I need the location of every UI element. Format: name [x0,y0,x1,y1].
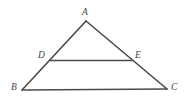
vertex-label-b: B [11,82,17,92]
segment-bc [22,89,167,90]
triangle-drawing [0,0,188,102]
segment-ab [22,21,86,90]
segment-ac [86,21,167,89]
vertex-label-d: D [38,50,45,60]
vertex-label-a: A [82,7,88,17]
geometry-figure: A B C D E [0,0,188,102]
vertex-label-e: E [135,50,141,60]
vertex-label-c: C [171,82,177,92]
